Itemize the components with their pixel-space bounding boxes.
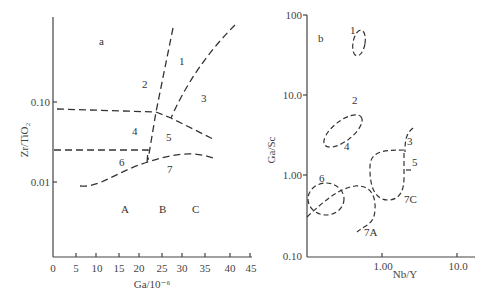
panel-a-label: a — [99, 35, 104, 47]
panel-b-x-tick-label: 10.0 — [448, 260, 468, 272]
panel-a-y-tick-label: 0.01 — [31, 176, 50, 188]
field-label: 3 — [407, 135, 413, 147]
field-label: 6 — [319, 172, 325, 184]
panel-b: 100 10.0 1.00 0.10 1.00 10.0 Nb/Y Ga/Sc … — [265, 9, 475, 280]
panel-b-y-tick-label: 1.00 — [283, 169, 303, 181]
field-label: 2 — [352, 94, 358, 106]
field-7c-outline — [370, 150, 404, 200]
field-label: 7C — [404, 193, 417, 205]
region-label: 5 — [166, 131, 172, 143]
zone-label: B — [159, 203, 166, 215]
diagram-canvas: 0.10 0.01 0 5 10 15 20 25 30 35 40 45 Ga… — [0, 0, 485, 293]
panel-a-x-tick-label: 40 — [225, 262, 237, 274]
zone-label: C — [192, 203, 199, 215]
panel-b-y-axis-title: Ga/Sc — [265, 136, 277, 163]
boundary-line — [156, 112, 213, 139]
region-label: 1 — [179, 55, 185, 67]
region-label: 3 — [201, 92, 207, 104]
panel-a-x-tick-label: 45 — [246, 262, 258, 274]
region-label: 4 — [132, 125, 138, 137]
boundary-line — [80, 154, 213, 186]
field-6-outline — [308, 183, 344, 215]
zone-label: A — [121, 203, 129, 215]
boundary-line — [57, 109, 156, 112]
field-label: 7A — [364, 226, 378, 238]
panel-a: 0.10 0.01 0 5 10 15 20 25 30 35 40 45 Ga… — [18, 17, 257, 290]
panel-a-x-axis-title: Ga/10⁻⁶ — [134, 278, 171, 290]
panel-b-x-tick-label: 1.00 — [373, 260, 393, 272]
panel-a-x-tick-label: 5 — [73, 262, 79, 274]
panel-b-label: b — [318, 32, 324, 44]
boundary-line — [54, 150, 148, 163]
panel-a-x-tick-label: 0 — [50, 262, 56, 274]
panel-b-y-tick-label: 0.10 — [283, 250, 303, 262]
panel-b-x-axis-title: Nb/Y — [393, 268, 418, 280]
region-label: 7 — [167, 163, 173, 175]
panel-a-x-tick-label: 15 — [114, 262, 126, 274]
panel-a-x-tick-label: 25 — [157, 262, 169, 274]
region-label: 6 — [119, 156, 125, 168]
panel-b-y-tick-label: 100 — [286, 9, 303, 21]
boundary-line — [171, 25, 235, 118]
panel-a-x-tick-label: 35 — [200, 262, 212, 274]
region-label: 2 — [142, 78, 148, 90]
panel-a-y-axis-title: Zr/TiO₂ — [18, 123, 30, 158]
panel-a-x-tick-label: 30 — [177, 262, 189, 274]
field-2-4-outline — [319, 109, 368, 153]
panel-a-x-tick-label: 10 — [92, 262, 104, 274]
panel-a-x-tick-label: 20 — [134, 262, 146, 274]
field-label: 5 — [412, 156, 418, 168]
panel-a-y-tick-label: 0.10 — [31, 96, 51, 108]
panel-b-y-tick-label: 10.0 — [283, 89, 303, 101]
field-label: 1 — [350, 24, 356, 36]
field-label: 4 — [344, 140, 350, 152]
